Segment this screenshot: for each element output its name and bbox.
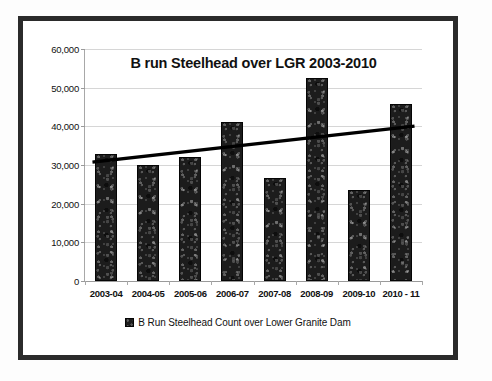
bar[interactable]: [390, 104, 412, 281]
x-axis-tick-mark: [338, 281, 339, 285]
legend-swatch-icon: [125, 318, 134, 327]
x-axis-category-label: 2005-06: [174, 288, 207, 299]
chart-plot-wrapper: B run Steelhead over LGR 2003-2010 60,00…: [23, 21, 453, 355]
y-axis-tick-label: 10,000: [51, 237, 79, 248]
chart-legend: B Run Steelhead Count over Lower Granite…: [23, 317, 453, 328]
y-axis-tick-label: 40,000: [51, 121, 79, 132]
y-axis-tick-label: 20,000: [51, 198, 79, 209]
bar-slot: 2009-10: [338, 49, 380, 281]
y-axis-tick-label: 50,000: [51, 82, 79, 93]
x-axis-category-label: 2003-04: [90, 288, 123, 299]
x-axis-tick-mark: [211, 281, 212, 285]
screenshot-canvas: B run Steelhead over LGR 2003-2010 60,00…: [0, 0, 492, 381]
x-axis-tick-mark: [296, 281, 297, 285]
x-axis-tick-mark: [380, 281, 381, 285]
legend-label: B Run Steelhead Count over Lower Granite…: [138, 317, 350, 328]
y-axis-tick-label: 30,000: [51, 160, 79, 171]
x-axis-category-label: 2008-09: [300, 288, 333, 299]
x-axis-tick-mark: [254, 281, 255, 285]
x-axis-category-label: 2007-08: [258, 288, 291, 299]
chart-frame: B run Steelhead over LGR 2003-2010 60,00…: [18, 16, 458, 360]
x-axis-category-label: 2009-10: [342, 288, 375, 299]
bar[interactable]: [179, 157, 201, 281]
bar[interactable]: [137, 165, 159, 281]
bar[interactable]: [264, 178, 286, 281]
y-axis-tick-label: 60,000: [51, 44, 79, 55]
bar-slot: 2006-07: [211, 49, 253, 281]
y-axis-tick-label: 0: [74, 276, 79, 287]
x-axis-category-label: 2006-07: [216, 288, 249, 299]
bar[interactable]: [306, 78, 328, 281]
bars-group: 2003-042004-052005-062006-072007-082008-…: [85, 49, 422, 281]
x-axis-tick-mark: [422, 281, 423, 285]
bar-slot: 2004-05: [127, 49, 169, 281]
bar[interactable]: [95, 154, 117, 281]
bar-slot: 2003-04: [85, 49, 127, 281]
x-axis-tick-mark: [127, 281, 128, 285]
x-axis-category-label: 2004-05: [132, 288, 165, 299]
bar-slot: 2007-08: [254, 49, 296, 281]
bar-slot: 2010 - 11: [380, 49, 422, 281]
plot-area: 60,00050,00040,00030,00020,00010,0000 20…: [85, 49, 422, 281]
bar-slot: 2008-09: [296, 49, 338, 281]
x-axis-tick-mark: [169, 281, 170, 285]
bar[interactable]: [348, 190, 370, 281]
bar-slot: 2005-06: [169, 49, 211, 281]
bar[interactable]: [221, 122, 243, 281]
x-axis-category-label: 2010 - 11: [382, 288, 419, 299]
chart-inner-panel: B run Steelhead over LGR 2003-2010 60,00…: [23, 21, 453, 355]
x-axis-tick-mark: [85, 281, 86, 285]
